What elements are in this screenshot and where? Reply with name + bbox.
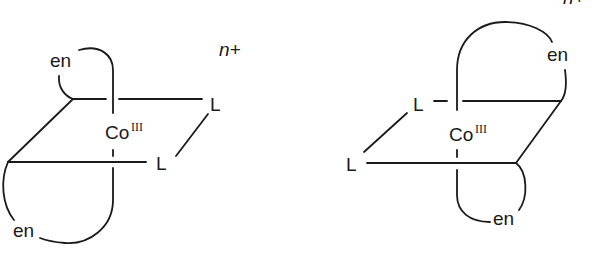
left-en-bottom-label: en bbox=[13, 220, 34, 241]
right-lower-en-arc bbox=[457, 170, 490, 222]
left-isomer: en en L L Co III n+ bbox=[3, 39, 240, 243]
left-charge-label: n+ bbox=[219, 39, 241, 60]
left-lower-en-tail bbox=[3, 162, 14, 220]
right-upper-en-tail bbox=[561, 70, 566, 101]
right-right-edge bbox=[516, 101, 561, 163]
left-upper-en-tail bbox=[59, 76, 73, 99]
right-L-top-label: L bbox=[413, 94, 424, 115]
right-co-label: Co bbox=[449, 124, 473, 145]
left-left-edge bbox=[8, 99, 73, 162]
left-co-label: Co bbox=[105, 122, 129, 143]
right-lower-en-tail bbox=[516, 163, 525, 210]
right-left-edge bbox=[364, 113, 407, 152]
left-en-top-label: en bbox=[50, 50, 71, 71]
right-en-bottom-label: en bbox=[493, 208, 514, 229]
right-isomer: en en L L Co III n+ bbox=[346, 0, 585, 229]
left-upper-en-arc bbox=[79, 48, 113, 113]
left-L-top-label: L bbox=[210, 94, 221, 115]
right-oxidation-state: III bbox=[475, 122, 487, 136]
right-upper-en-arc bbox=[457, 22, 552, 110]
left-L-bottom-label: L bbox=[156, 153, 167, 174]
left-right-edge bbox=[176, 114, 208, 156]
isomer-diagram: en en L L Co III n+ en en L L Co III n+ bbox=[0, 0, 592, 257]
right-L-bottom-label: L bbox=[346, 154, 357, 175]
left-lower-en-arc bbox=[40, 168, 113, 243]
right-charge-label: n+ bbox=[563, 0, 585, 8]
left-oxidation-state: III bbox=[131, 120, 143, 134]
right-en-top-label: en bbox=[547, 44, 568, 65]
